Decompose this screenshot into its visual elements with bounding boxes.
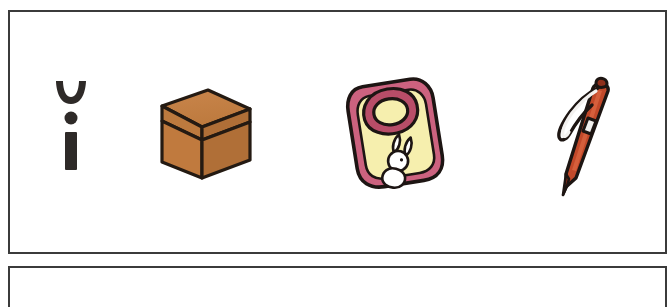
cardboard-box-icon bbox=[136, 82, 260, 182]
item-letter-glyph[interactable] bbox=[32, 12, 132, 252]
letter-glyph-icon bbox=[46, 74, 106, 174]
ballpoint-pen-icon bbox=[536, 74, 632, 199]
item-ballpoint-pen[interactable] bbox=[520, 12, 650, 252]
item-baby-bib[interactable] bbox=[320, 12, 470, 252]
baby-bib-icon bbox=[342, 70, 452, 195]
items-panel bbox=[8, 10, 667, 254]
worksheet-page bbox=[0, 0, 669, 307]
item-cardboard-box[interactable] bbox=[120, 12, 270, 252]
answer-panel[interactable] bbox=[8, 266, 667, 307]
